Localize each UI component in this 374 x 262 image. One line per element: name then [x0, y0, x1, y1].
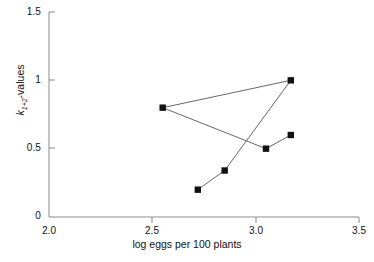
y-axis-subscript: 1+2	[21, 98, 28, 110]
y-tick-label-1.5: 1.5	[8, 6, 41, 17]
chart-figure: 1.5 1 0.5 0 2.0 2.5 3.0 3.5 log eggs per…	[0, 0, 374, 262]
data-point-marker	[288, 132, 294, 138]
x-axis-label: log eggs per 100 plants	[0, 238, 374, 250]
x-tick-label-3.0: 3.0	[241, 225, 271, 236]
x-tick-label-2.0: 2.0	[34, 225, 64, 236]
plot-area	[0, 0, 374, 262]
data-point-marker	[221, 167, 227, 173]
y-axis-label: k1+2-values	[14, 65, 26, 116]
data-point-marker	[159, 104, 165, 110]
y-tick-label-0: 0	[8, 210, 41, 221]
data-point-marker	[263, 145, 269, 151]
x-tick-label-3.5: 3.5	[344, 225, 374, 236]
y-axis-label-container: k1+2-values	[10, 20, 30, 160]
data-series-markers	[159, 77, 294, 193]
y-axis-suffix: -values	[14, 65, 26, 99]
data-point-marker	[195, 186, 201, 192]
y-axis-symbol: k	[14, 110, 26, 115]
data-point-marker	[288, 77, 294, 83]
x-tick-label-2.5: 2.5	[137, 225, 167, 236]
